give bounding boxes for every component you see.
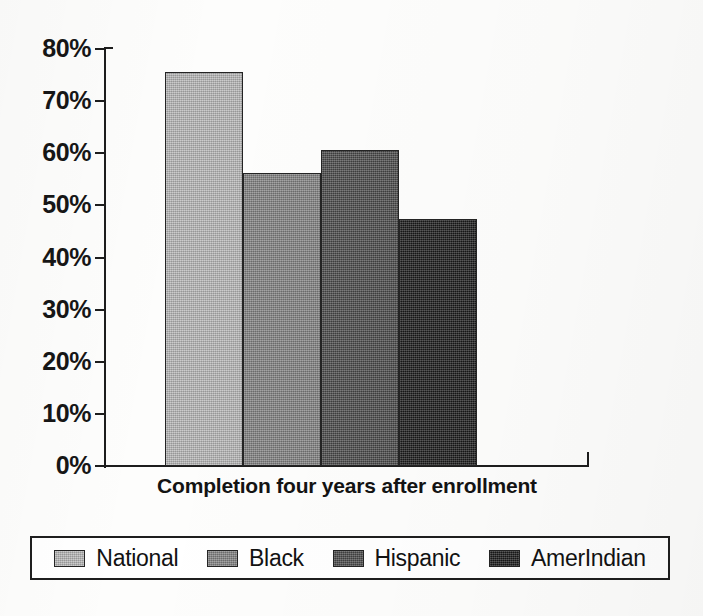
y-axis-tick	[95, 100, 105, 102]
chart-legend: NationalBlackHispanicAmerIndian	[30, 536, 670, 580]
legend-swatch-icon	[489, 550, 520, 567]
y-axis-tick	[95, 413, 105, 415]
y-axis-tick	[95, 309, 105, 311]
y-axis-tick-label: 80%	[42, 36, 91, 61]
legend-swatch-texture	[489, 550, 520, 567]
bar-amerindian	[399, 219, 477, 466]
y-axis-tick-label: 70%	[42, 88, 91, 113]
legend-item-hispanic[interactable]: Hispanic	[333, 547, 461, 570]
bar-group	[105, 49, 588, 466]
y-axis-tick	[95, 257, 105, 259]
legend-item-black[interactable]: Black	[207, 547, 304, 570]
y-axis-tick-label: 50%	[42, 192, 91, 217]
legend-item-label: Black	[249, 547, 304, 570]
y-axis-tick-label: 30%	[42, 297, 91, 322]
legend-swatch-icon	[333, 550, 364, 567]
plot-area	[105, 49, 588, 466]
legend-swatch-icon	[207, 550, 238, 567]
bar-fill-texture	[399, 219, 477, 466]
x-axis-title: Completion four years after enrollment	[105, 474, 589, 498]
y-axis-tick	[95, 152, 105, 154]
legend-swatch-texture	[333, 550, 364, 567]
y-axis-tick-label: 0%	[56, 453, 91, 478]
legend-item-label: National	[96, 547, 178, 570]
bar-fill-texture	[321, 150, 399, 466]
bar-hispanic	[321, 150, 399, 466]
y-axis-tick	[95, 361, 105, 363]
legend-item-amerindian[interactable]: AmerIndian	[489, 547, 646, 570]
legend-item-national[interactable]: National	[54, 547, 178, 570]
y-axis-tick	[95, 204, 105, 206]
y-axis-tick-label: 40%	[42, 245, 91, 270]
y-axis-tick-label: 10%	[42, 401, 91, 426]
y-axis-tick	[95, 465, 105, 467]
bar-chart-figure: 0%10%20%30%40%50%60%70%80% Completion fo…	[0, 0, 703, 616]
bar-black	[243, 173, 321, 466]
legend-item-label: AmerIndian	[531, 547, 646, 570]
y-axis-tick-label: 20%	[42, 349, 91, 374]
bar-fill-texture	[243, 173, 321, 466]
legend-item-label: Hispanic	[375, 547, 461, 570]
legend-swatch-icon	[54, 550, 85, 567]
y-axis-tick	[95, 48, 105, 50]
y-axis-tick-label: 60%	[42, 140, 91, 165]
legend-swatch-texture	[207, 550, 238, 567]
bar-national	[165, 72, 243, 466]
legend-swatch-texture	[54, 550, 85, 567]
bar-fill-texture	[165, 72, 243, 466]
